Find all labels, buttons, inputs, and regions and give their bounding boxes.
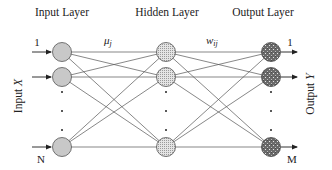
- neural-network-diagram: Input Layer Hidden Layer Output Layer μj…: [0, 0, 332, 170]
- edges-input-hidden: [62, 52, 166, 147]
- input-index-bottom: N: [37, 153, 45, 165]
- output-node-2: [262, 68, 281, 87]
- input-arrows: [32, 52, 51, 147]
- weight-label-mu: μj: [103, 34, 113, 48]
- output-y-label: OutputY: [304, 72, 317, 115]
- output-ellipsis-icon: [270, 91, 272, 93]
- output-node-m: [262, 138, 281, 157]
- hidden-ellipsis-icon: [165, 91, 167, 93]
- hidden-node-last: [157, 138, 176, 157]
- output-layer-title: Output Layer: [232, 6, 294, 19]
- input-index-top: 1: [34, 36, 40, 48]
- input-node-n: [53, 138, 72, 157]
- output-node-1: [262, 43, 281, 62]
- hidden-layer-title: Hidden Layer: [135, 6, 199, 19]
- input-layer-nodes: [53, 43, 72, 157]
- output-index-bottom: M: [287, 153, 297, 165]
- hidden-node-2: [157, 68, 176, 87]
- input-layer-title: Input Layer: [35, 6, 89, 19]
- output-layer-nodes: [262, 43, 281, 157]
- edges-hidden-output: [166, 52, 271, 147]
- output-arrows: [281, 52, 297, 147]
- input-node-2: [53, 68, 72, 87]
- hidden-layer-nodes: [157, 43, 176, 157]
- weight-label-w: wij: [206, 34, 219, 48]
- hidden-node-1: [157, 43, 176, 62]
- input-ellipsis-icon: [61, 91, 63, 93]
- ellipsis-dots: [61, 91, 272, 131]
- output-index-top: 1: [287, 36, 293, 48]
- input-x-label: InputX: [12, 78, 25, 113]
- input-node-1: [53, 43, 72, 62]
